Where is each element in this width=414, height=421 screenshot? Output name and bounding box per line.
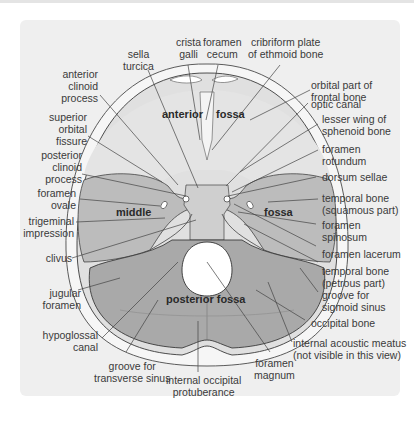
label-crista-galli: crista galli [176,36,201,60]
label-temporal-bone-squamous: temporal bone (squamous part) [322,192,398,216]
region-anterior: anterior [162,108,203,120]
label-internal-acoustic-meatus: internal acoustic meatus (not visible in… [293,337,406,361]
label-occipital-bone: occipital bone [311,317,375,329]
label-foramen-magnum: foramen magnum [254,357,295,381]
label-dorsum-sellae: dorsum sellae [322,171,387,183]
label-hypoglossal-canal: hypoglossal canal [38,329,98,353]
label-groove-sigmoid-sinus: groove for sigmoid sinus [322,289,386,313]
label-superior-orbital-fissure: superior orbital fissure [40,111,87,147]
label-foramen-spinosum: foramen spinosum [322,219,367,243]
label-trigeminal-impression: trigeminal impression [18,215,74,239]
region-posterior-fossa: posterior fossa [166,293,245,305]
label-foramen-lacerum: foramen lacerum [322,248,401,260]
label-foramen-ovale: foramen ovale [36,187,76,211]
label-jugular-foramen: jugular foramen [36,287,81,311]
label-cribriform-plate: cribriform plate of ethmoid bone [248,36,323,60]
foramen-magnum [182,242,232,296]
sella-clivus [184,185,230,240]
label-foramen-rotundum: foramen rotundum [322,143,366,167]
region-middle-fossa: fossa [264,206,293,218]
region-anterior-fossa: fossa [216,108,245,120]
label-temporal-bone-petrous: temporal bone (petrous part) [322,265,389,289]
label-internal-occipital-protuberance: internal occipital protuberance [166,374,241,398]
label-groove-transverse-sinus: groove for transverse sinus [94,360,170,384]
label-lesser-wing-sphenoid: lesser wing of sphenoid bone [322,113,391,137]
region-middle: middle [116,206,151,218]
label-clivus: clivus [30,252,72,264]
label-posterior-clinoid-process: posterior clinoid process [36,149,82,185]
label-anterior-clinoid-process: anterior clinoid process [56,68,98,104]
label-optic-canal: optic canal [311,98,361,110]
label-foramen-cecum: foramen cecum [203,36,242,60]
label-sella-turcica: sella turcica [123,48,154,72]
